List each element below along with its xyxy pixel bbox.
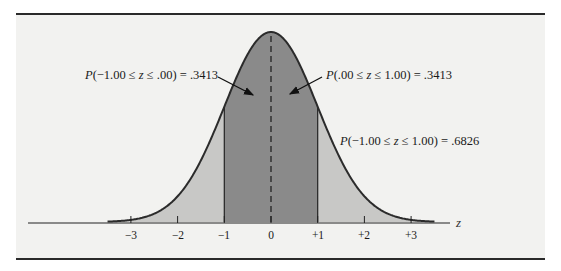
label-text: (−1.00 ≤ [348, 134, 394, 148]
annotation-left: P(−1.00 ≤ z ≤ .00) = .3413 [85, 68, 218, 82]
axis-label-z: z [456, 215, 461, 231]
tick-label-plus3: +3 [405, 229, 417, 241]
annotation-right: P(.00 ≤ z ≤ 1.00) = .3413 [326, 68, 452, 82]
p-symbol: P [326, 68, 334, 82]
tick-label-minus3: −3 [125, 229, 137, 241]
left-tail-area [108, 107, 225, 222]
label-value: ≤ 1.00) = .3413 [371, 68, 452, 82]
tick-label-plus1: +1 [312, 229, 324, 241]
tick-label-0: 0 [268, 229, 274, 241]
annotation-total: P(−1.00 ≤ z ≤ 1.00) = .6826 [340, 134, 479, 148]
p-symbol: P [85, 68, 93, 82]
label-value: ≤ .00) = .3413 [144, 68, 218, 82]
tick-label-minus1: −1 [218, 229, 230, 241]
tick-label-minus2: −2 [172, 229, 184, 241]
label-text: (−1.00 ≤ [93, 68, 139, 82]
label-value: ≤ 1.00) = .6826 [399, 134, 480, 148]
p-symbol: P [340, 134, 348, 148]
tick-label-plus2: +2 [358, 229, 370, 241]
label-text: (.00 ≤ [334, 68, 367, 82]
right-tail-area [318, 107, 435, 222]
